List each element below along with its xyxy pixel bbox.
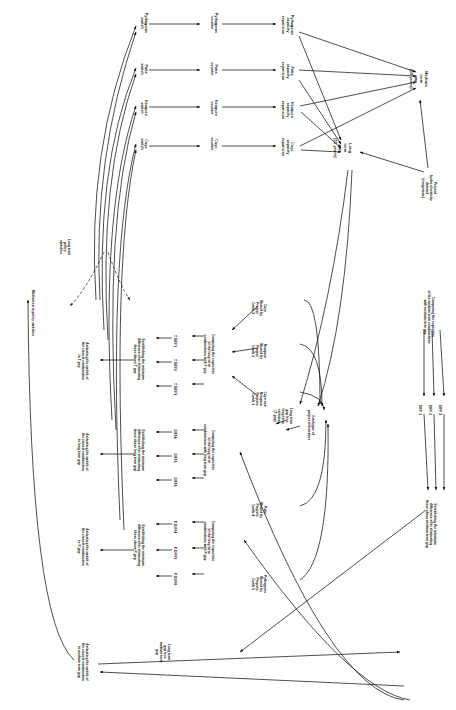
node-diff-3: DIFF 3: [437, 400, 441, 420]
node-catalogue-of-alternatives: Catalogue of project alternatives: [306, 404, 314, 446]
node-compare-long-term-gap: Comparing the capacities of the long ter…: [202, 418, 214, 482]
node-diff-1: DIFF 1: [417, 400, 421, 420]
node-present-hydro-demand: Present hydro-electricity demand (exogen…: [420, 164, 436, 212]
node-pythagoras-counter: Pythagoras counter: [209, 6, 218, 40]
node-diff-6: DIFF6: [172, 472, 176, 492]
node-diff-5: DIFF5: [172, 448, 176, 468]
node-compare-long-term-pgap: Comparing the capacities of the long ter…: [202, 510, 214, 572]
node-establish-min-long-term: Establishing the minimum difference afte…: [132, 418, 144, 482]
node-comb-3-cuyo-shared: Cuyo Shared by Project Comb 3: [250, 292, 266, 324]
node-t-diff2: T DIFF2: [172, 354, 176, 376]
node-p-diff-5: P-DIFF5: [172, 542, 176, 564]
node-neuquen-switch: Neuquen switch: [139, 92, 148, 124]
node-comb-1-cuyo-neuquen: Cuyo and Neuquen Projects Comb 1: [250, 382, 266, 416]
node-cuyo-switch: Cuyo switch: [139, 130, 148, 158]
diagram-edges: [0, 0, 456, 710]
node-establish-min-tgap: Establishing the minimum difference afte…: [132, 328, 144, 390]
node-pythagoras-capacity-expansion: Pythagoras capacity expansion: [281, 4, 294, 46]
diagram-canvas: Pythagoras switch Pythagoras counter Pyt…: [0, 0, 456, 710]
node-long-minus-medium-gap: Long term gap less medium term gap: [154, 632, 170, 672]
node-comb-4-patia-shared: Patia Shared by Projects Comb 4: [250, 494, 266, 526]
node-compare-medium-term: Comparing the capacities of the medium t…: [422, 282, 434, 352]
node-activate-switch-medium-term: Activating the switch of the closest com…: [76, 634, 88, 690]
node-p-diff-4: P-DIFF4: [172, 516, 176, 538]
node-pythagoras-switch: Pythagoras switch: [139, 6, 148, 40]
node-p-diff-6: P-DIFF6: [172, 568, 176, 590]
node-patia-switch: Patia switch: [139, 54, 148, 84]
node-patia-capacity-expansion: Patia capacity expansion: [281, 52, 294, 90]
node-t-diff1: T DIFF1: [172, 330, 176, 352]
node-medium-term-policy-switches: Medium term policy switches: [30, 282, 34, 344]
node-cuyo-capacity-expansion: Cuyo capacity expansion: [281, 128, 294, 166]
node-medium-term-gap: Medium term gap (10 years): [409, 56, 429, 102]
node-neuquen-capacity-expansion: Neuquen capacity expansion: [281, 90, 294, 130]
node-cuyo-counter: Cuyo counter: [209, 130, 218, 158]
node-establish-min-pgap: Establishing the minimum difference afte…: [132, 514, 144, 576]
node-compare-long-term-tgap: Comparing the capacities of the long ter…: [202, 324, 214, 384]
node-comb-5-pythagoras-shared: Pythagoras Shared by Projects Comb 5: [250, 568, 266, 600]
node-establish-min-medium: Establishing the minimum difference afte…: [424, 490, 436, 558]
node-activate-switch-pgap: Activating the switch of the closest com…: [76, 520, 88, 574]
node-long-term-policy-switches: Long term policy switches: [58, 232, 70, 262]
node-neuquen-counter: Neuquen counter: [209, 92, 218, 124]
node-activate-switch-tgap: Activating the switch of the closest com…: [76, 334, 88, 388]
node-diff-4: DIFF4: [172, 424, 176, 444]
node-comb-2-neuquen-shared: Neuquen Shared by Project Comb 2: [250, 334, 266, 368]
node-long-term-gap: Long term gap (15 years): [333, 126, 353, 170]
node-activate-switch-long-term: Activating the switch of the closest com…: [76, 424, 88, 480]
node-t-gap: Long term gap less long term selection (…: [272, 398, 292, 434]
node-t-diff3: T DIFF3: [172, 378, 176, 400]
node-patia-counter: Patia counter: [209, 54, 218, 84]
node-diff-2: DIFF 2: [427, 400, 431, 420]
